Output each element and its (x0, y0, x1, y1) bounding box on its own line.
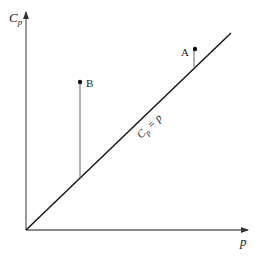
cp-diagram: Cp p B A Cp = p (0, 0, 260, 256)
x-axis-label: p (239, 234, 247, 249)
y-axis-label: Cp (9, 10, 23, 27)
cp-equals-p-line (26, 33, 231, 230)
point-b-label: B (86, 77, 93, 89)
point-a-label: A (181, 46, 189, 58)
point-b-marker (78, 80, 82, 84)
point-a-marker (193, 47, 197, 51)
line-label: Cp = p (134, 111, 166, 143)
